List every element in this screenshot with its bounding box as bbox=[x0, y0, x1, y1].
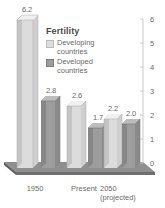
fertility-bar-chart: 6 5 4 3 2 1 0 6.2 2.8 2.6 1.7 2.2 2.0 19… bbox=[0, 0, 165, 208]
y-tick-2: 2 bbox=[150, 111, 154, 120]
legend-label-developing-line2: countries bbox=[57, 47, 87, 56]
legend-label-developed: Developed countries bbox=[57, 58, 93, 75]
y-tick-6: 6 bbox=[150, 15, 154, 24]
y-tick-5: 5 bbox=[150, 39, 154, 48]
value-label-2050-developed: 2.0 bbox=[126, 109, 136, 118]
legend-item-developing: Developing countries bbox=[46, 39, 95, 56]
x-label-1950-line1: 1950 bbox=[27, 184, 44, 193]
x-label-2050-line2: (projected) bbox=[100, 193, 158, 202]
x-label-1950: 1950 bbox=[10, 184, 60, 193]
y-tick-0: 0 bbox=[150, 159, 154, 168]
y-tick-1: 1 bbox=[150, 135, 154, 144]
value-label-present-developed: 1.7 bbox=[93, 113, 103, 122]
y-tick-4: 4 bbox=[150, 63, 154, 72]
bar-2050-developing bbox=[104, 114, 122, 168]
value-label-2050-developing: 2.2 bbox=[108, 104, 118, 113]
value-label-1950-developing: 6.2 bbox=[22, 5, 32, 14]
bar-present-developing bbox=[67, 101, 86, 168]
legend-label-developed-line2: countries bbox=[57, 66, 87, 75]
bar-1950-developing bbox=[17, 15, 38, 168]
y-tick-3: 3 bbox=[150, 87, 154, 96]
legend-swatch-developed-icon bbox=[46, 59, 54, 67]
x-label-present-line1: Present bbox=[71, 184, 97, 193]
value-label-present-developing: 2.6 bbox=[72, 91, 82, 100]
y-axis bbox=[140, 19, 143, 163]
value-label-1950-developed: 2.8 bbox=[46, 86, 56, 95]
x-label-2050: 2050 (projected) bbox=[100, 184, 158, 202]
legend-swatch-developing-icon bbox=[46, 40, 54, 48]
legend-title: Fertility bbox=[46, 26, 95, 36]
bar-2050-developed bbox=[122, 119, 140, 168]
chart-legend: Fertility Developing countries Developed… bbox=[46, 26, 95, 77]
legend-item-developed: Developed countries bbox=[46, 58, 95, 75]
x-label-2050-line1: 2050 bbox=[100, 184, 117, 193]
bar-1950-developed bbox=[41, 96, 60, 168]
legend-label-developing: Developing countries bbox=[57, 39, 95, 56]
